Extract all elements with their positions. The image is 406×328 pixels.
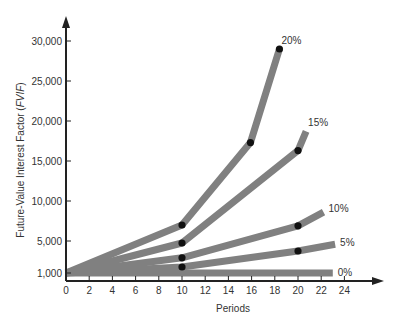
y-tick-label: 5,000 — [37, 236, 62, 247]
data-point-marker — [276, 45, 283, 52]
series-label-15pct: 15% — [308, 117, 328, 128]
data-point-marker — [178, 263, 185, 270]
data-point-marker — [294, 222, 301, 229]
y-tick-label: 1,000 — [37, 268, 62, 279]
data-point-marker — [294, 247, 301, 254]
x-tick-label: 10 — [176, 285, 188, 296]
x-tick-label: 0 — [63, 285, 69, 296]
y-axis-title-close: ) — [15, 82, 26, 85]
series-label-20pct: 20% — [281, 35, 301, 46]
series-label-0pct: 0% — [338, 267, 353, 278]
series-label-10pct: 10% — [329, 203, 349, 214]
data-point-marker — [247, 139, 254, 146]
x-tick-label: 6 — [133, 285, 139, 296]
series-lines — [66, 49, 335, 273]
x-tick-label: 14 — [223, 285, 235, 296]
x-tick-label: 20 — [292, 285, 304, 296]
y-tick-label: 25,000 — [31, 76, 62, 87]
series-label-5pct: 5% — [340, 237, 355, 248]
y-axis-title-plain: Future-Value Interest Factor ( — [15, 107, 26, 238]
data-point-marker — [178, 254, 185, 261]
y-tick-label: 10,000 — [31, 196, 62, 207]
y-axis-title: Future-Value Interest Factor (FVIF) — [15, 82, 26, 237]
y-tick-label: 30,000 — [31, 36, 62, 47]
y-axis-title-italic: FVIF — [15, 85, 26, 108]
x-tick-label: 4 — [110, 285, 116, 296]
x-tick-label: 12 — [200, 285, 212, 296]
fvif-line-chart: 0246810121416182022241,0005,00010,00015,… — [0, 0, 406, 328]
x-axis-title: Periods — [216, 303, 250, 314]
x-axis-arrow-icon — [372, 277, 384, 285]
data-point-marker — [294, 147, 301, 154]
y-axis-arrow-icon — [62, 16, 70, 28]
x-tick-label: 8 — [156, 285, 162, 296]
x-tick-label: 24 — [339, 285, 351, 296]
data-point-marker — [178, 221, 185, 228]
y-tick-label: 20,000 — [31, 116, 62, 127]
x-tick-label: 18 — [269, 285, 281, 296]
x-tick-label: 2 — [86, 285, 92, 296]
x-tick-label: 22 — [316, 285, 328, 296]
data-point-marker — [178, 239, 185, 246]
y-tick-label: 15,000 — [31, 156, 62, 167]
x-tick-label: 16 — [246, 285, 258, 296]
